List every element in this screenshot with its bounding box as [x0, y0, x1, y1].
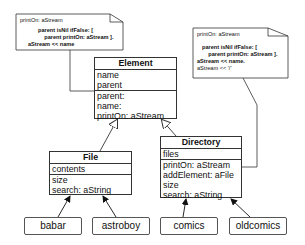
astroboy-instance-of-file	[103, 196, 116, 217]
left-note-line-3: aStream << name	[28, 41, 74, 48]
file-inherits-element	[100, 120, 117, 151]
method: size	[163, 180, 239, 190]
method: addElement: aFile	[163, 170, 239, 180]
method: printOn: aStream	[163, 160, 239, 170]
right-note-line-3: aStream << name.	[197, 58, 245, 65]
method: size	[52, 175, 129, 185]
right-note-signature: printOn: aStream	[197, 31, 240, 38]
class-file-attributes: contents	[50, 164, 131, 175]
instance-babar[interactable]: babar	[24, 217, 82, 235]
left-note-line-2: parent printOn: aStream ].	[38, 34, 114, 41]
class-directory-name: Directory	[161, 137, 241, 149]
left-note-signature: printOn: aStream	[20, 17, 63, 24]
method: name:	[97, 101, 174, 111]
attribute: files	[163, 149, 239, 159]
oldcomics-instance-of-directory	[231, 199, 250, 217]
class-element-name: Element	[95, 58, 176, 70]
right-note-line-1: parent isNil ifFalse: [	[202, 44, 257, 51]
method: parent:	[97, 91, 174, 101]
class-directory-methods: printOn: aStream addElement: aFile size …	[161, 160, 241, 200]
attribute: parent	[97, 80, 174, 90]
left-note: printOn: aStream parent isNil ifFalse: […	[17, 15, 109, 49]
instance-comics[interactable]: comics	[160, 217, 218, 235]
directory-inherits-element	[162, 120, 176, 136]
method: search: aString	[163, 190, 239, 200]
class-directory-attributes: files	[161, 149, 241, 160]
left-note-line-1: parent isNil ifFalse: [	[38, 27, 93, 34]
class-file-name: File	[50, 152, 131, 164]
instance-oldcomics[interactable]: oldcomics	[229, 217, 287, 235]
right-note-link	[241, 78, 257, 167]
attribute: name	[97, 70, 174, 80]
class-element[interactable]: Element name parent parent: name: printO…	[94, 57, 177, 119]
class-file-methods: size search: aString	[50, 175, 131, 195]
class-element-methods: parent: name: printOn: aStream	[95, 91, 176, 121]
right-note: printOn: aStream parent isNil ifFalse: […	[194, 29, 286, 77]
left-note-link	[70, 50, 94, 91]
babar-instance-of-file	[58, 196, 70, 217]
attribute: contents	[52, 164, 129, 174]
class-directory[interactable]: Directory files printOn: aStream addElem…	[160, 136, 242, 198]
class-element-attributes: name parent	[95, 70, 176, 91]
method: printOn: aStream	[97, 111, 174, 121]
method: search: aString	[52, 185, 129, 195]
right-note-line-4: aStream << '/'	[197, 65, 231, 72]
comics-instance-of-directory	[183, 199, 186, 217]
right-note-line-2: parent printOn: aStream ].	[202, 51, 278, 58]
class-file[interactable]: File contents size search: aString	[49, 151, 132, 195]
instance-astroboy[interactable]: astroboy	[92, 217, 150, 235]
